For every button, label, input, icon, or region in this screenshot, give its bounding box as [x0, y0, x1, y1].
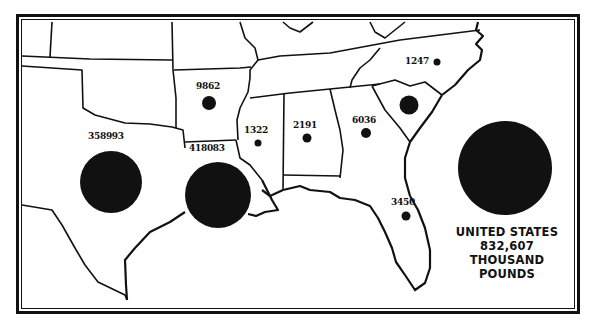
border-ks-ok-top [22, 56, 172, 60]
alabama-value: 2191 [293, 120, 317, 130]
texas-circle [80, 151, 142, 213]
border-ok-ar [172, 22, 176, 128]
border-tn-south [250, 84, 380, 98]
arkansas-value: 9862 [196, 81, 220, 91]
border-tn-nc [350, 48, 380, 88]
north-carolina-circle [434, 59, 441, 66]
alabama-circle [303, 134, 312, 143]
louisiana-circle [185, 162, 251, 228]
louisiana-value: 418083 [189, 143, 225, 153]
legend-line-3: THOUSAND [438, 253, 576, 267]
border-al-ga [330, 89, 343, 178]
border-rio-grande [22, 205, 127, 300]
texas-value: 358993 [88, 131, 124, 141]
coast-texas [125, 212, 185, 300]
border-sc-ga [372, 86, 410, 142]
border-co-ks [50, 22, 52, 57]
border-ar-la [185, 140, 236, 142]
florida-circle [402, 212, 411, 221]
united-states-legend: UNITED STATES 832,607 THOUSAND POUNDS [438, 225, 576, 281]
arkansas-circle [202, 96, 216, 110]
border-ar-ms-river [237, 22, 258, 140]
border-va-nc-wavy [370, 22, 405, 38]
legend-line-4: POUNDS [438, 267, 576, 281]
southern-states-map [0, 0, 596, 335]
north-carolina-value: 1247 [405, 56, 429, 66]
border-nc-sc [372, 80, 442, 95]
south-carolina-circle [400, 96, 419, 115]
florida-value: 3450 [391, 197, 415, 207]
united-states-circle [458, 121, 552, 215]
mississippi-circle [255, 140, 262, 147]
border-wv-va [283, 22, 313, 32]
coast-ms [262, 190, 283, 196]
border-mo-ar [174, 67, 251, 70]
georgia-circle [361, 128, 371, 138]
border-ky-tn [258, 30, 480, 60]
georgia-value: 6036 [352, 115, 376, 125]
border-fl-al-ga [283, 175, 340, 176]
mississippi-value: 1322 [244, 125, 268, 135]
legend-line-1: UNITED STATES [438, 225, 576, 239]
coast-la-delta [248, 180, 278, 216]
legend-line-2: 832,607 [438, 239, 576, 253]
